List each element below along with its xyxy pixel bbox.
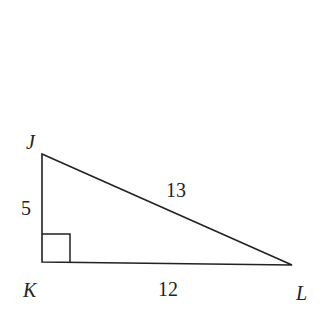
vertex-label-k: K (22, 279, 38, 301)
vertex-label-j: J (26, 131, 36, 153)
side-label-jk: 5 (21, 197, 31, 219)
triangle-diagram: J K L 5 12 13 (0, 0, 335, 319)
side-label-kl: 12 (158, 278, 178, 300)
vertex-label-l: L (295, 282, 307, 304)
side-label-jl: 13 (166, 179, 186, 201)
right-angle-marker (42, 234, 70, 262)
triangle-jkl (42, 154, 292, 265)
